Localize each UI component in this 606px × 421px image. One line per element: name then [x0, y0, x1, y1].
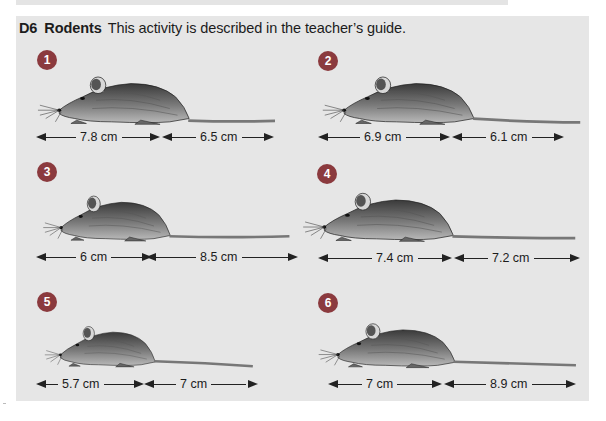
top-divider-strip	[16, 0, 508, 5]
tail-length-label: 6.5 cm	[196, 130, 242, 144]
mouse-illustration	[305, 318, 580, 374]
body-length-label: 6.9 cm	[360, 130, 406, 144]
mouse-illustration	[292, 185, 578, 251]
body-length-label: 7.8 cm	[76, 130, 122, 144]
mouse-illustration	[32, 323, 262, 373]
mouse-illustration	[35, 66, 275, 140]
tail-length-label: 6.1 cm	[486, 130, 532, 144]
length-measurement: 6 cm 8.5 cm	[36, 250, 298, 264]
tail-length-label: 8.5 cm	[196, 250, 242, 264]
mouse-illustration	[318, 66, 583, 140]
body-length-label: 7.4 cm	[372, 251, 418, 265]
body-length-label: 7 cm	[362, 377, 397, 391]
page-mark	[3, 403, 6, 404]
length-measurement: 7.4 cm 7.2 cm	[318, 251, 580, 265]
activity-description: This activity is described in the teache…	[108, 20, 406, 36]
mouse-illustration	[30, 190, 302, 250]
length-measurement: 7 cm 8.9 cm	[328, 377, 576, 391]
length-measurement: 5.7 cm 7 cm	[36, 377, 258, 391]
activity-code: D6	[19, 20, 37, 36]
activity-heading: D6RodentsThis activity is described in t…	[19, 20, 406, 36]
number-badge: 3	[37, 162, 57, 182]
tail-length-label: 8.9 cm	[486, 377, 532, 391]
number-badge: 5	[37, 292, 57, 312]
activity-title: Rodents	[44, 20, 101, 36]
length-measurement: 6.9 cm 6.1 cm	[318, 130, 566, 144]
number-badge: 4	[317, 164, 337, 184]
length-measurement: 7.8 cm 6.5 cm	[36, 130, 276, 144]
tail-length-label: 7 cm	[176, 377, 211, 391]
tail-length-label: 7.2 cm	[488, 251, 534, 265]
body-length-label: 5.7 cm	[58, 377, 104, 391]
number-badge: 6	[318, 293, 338, 313]
body-length-label: 6 cm	[76, 250, 111, 264]
